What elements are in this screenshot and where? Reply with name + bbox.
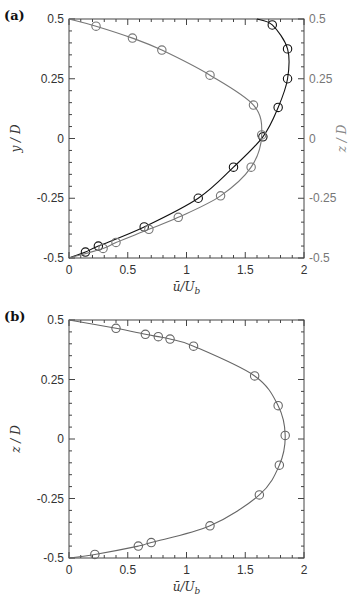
y-axis-label: z / D xyxy=(9,425,23,454)
series-curve xyxy=(69,19,289,258)
chart-panel-a: 00.511.520.50.50.250.2500-0.25-0.25-0.5-… xyxy=(4,8,349,296)
y-right-tick-label: 0 xyxy=(309,132,316,146)
y-tick-label: 0 xyxy=(57,432,64,446)
plot-frame xyxy=(69,320,304,558)
y-right-tick-label: 0.5 xyxy=(309,12,326,26)
y-tick-label: -0.25 xyxy=(37,191,65,205)
series-curve xyxy=(69,19,262,258)
x-tick-label: 2 xyxy=(301,563,308,577)
y-axis-label: y / D xyxy=(9,124,23,153)
y-tick-label: -0.5 xyxy=(43,251,64,265)
plot-frame xyxy=(69,19,304,258)
panel-label: (a) xyxy=(4,8,25,23)
y-tick-label: 0.5 xyxy=(47,12,64,26)
x-axis-label: ū/Ub xyxy=(173,280,201,296)
y-right-tick-label: -0.5 xyxy=(309,251,330,265)
x-tick-label: 1 xyxy=(183,263,190,277)
x-tick-label: 0 xyxy=(66,563,73,577)
y-tick-label: 0 xyxy=(57,132,64,146)
x-tick-label: 1 xyxy=(183,563,190,577)
x-tick-label: 0 xyxy=(66,263,73,277)
panel-label: (b) xyxy=(4,309,25,324)
y-tick-label: 0.25 xyxy=(41,72,65,86)
y-tick-label: 0.5 xyxy=(47,313,64,327)
y-right-tick-label: 0.25 xyxy=(309,72,333,86)
x-tick-label: 1.5 xyxy=(237,563,254,577)
y-tick-label: 0.25 xyxy=(41,373,65,387)
series-curve xyxy=(69,320,285,558)
y-right-tick-label: -0.25 xyxy=(309,191,337,205)
x-tick-label: 2 xyxy=(301,263,308,277)
y-right-axis-label: z / D xyxy=(335,124,349,153)
figure: 00.511.520.50.50.250.2500-0.25-0.25-0.5-… xyxy=(0,0,357,612)
x-axis-label: ū/Ub xyxy=(173,580,201,596)
chart-panel-b: 00.511.520.50.250-0.25-0.5ū/Ubz / D(b) xyxy=(4,309,308,596)
x-tick-label: 0.5 xyxy=(119,563,136,577)
x-tick-label: 0.5 xyxy=(119,263,136,277)
y-tick-label: -0.5 xyxy=(43,551,64,565)
x-tick-label: 1.5 xyxy=(237,263,254,277)
y-tick-label: -0.25 xyxy=(37,492,65,506)
